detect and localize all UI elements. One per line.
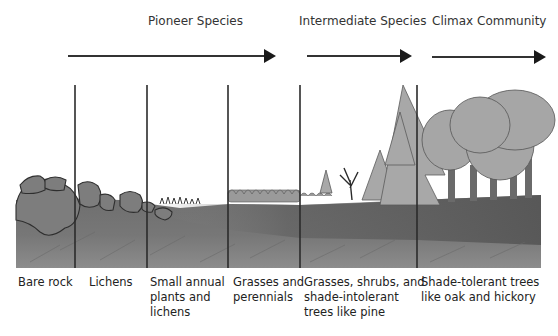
label-grasses-perennials: Grasses and perennials	[233, 275, 304, 305]
deciduous-trees	[422, 90, 555, 202]
label-small-annual-plants: Small annual plants and lichens	[150, 275, 225, 320]
label-lichens: Lichens	[89, 275, 133, 290]
grasses	[228, 190, 332, 202]
label-grasses-shrubs-pine: Grasses, shrubs, and shade-intolerant tr…	[304, 275, 425, 320]
label-shade-tolerant-trees: Shade-tolerant trees like oak and hickor…	[421, 275, 539, 305]
label-bare-rock: Bare rock	[18, 275, 73, 290]
small-plants	[160, 197, 200, 204]
dead-shrub	[340, 168, 358, 200]
